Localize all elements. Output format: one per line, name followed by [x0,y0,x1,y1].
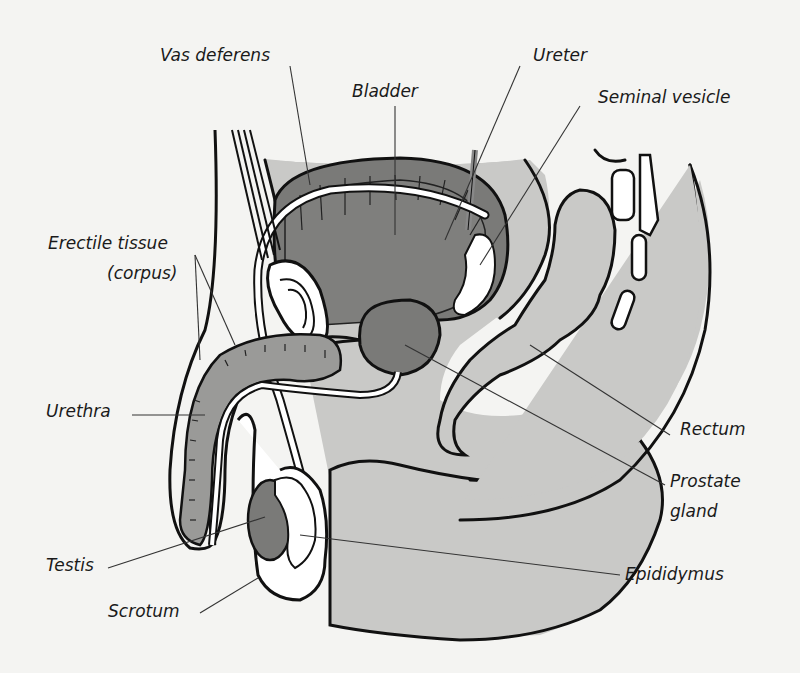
label-bladder: Bladder [352,80,418,102]
label-scrotum: Scrotum [108,600,180,622]
prostate-shape [360,300,440,375]
label-erectile-tissue-line1: Erectile tissue [48,232,168,254]
label-epididymus: Epididymus [625,563,724,585]
label-rectum: Rectum [680,418,746,440]
label-erectile-tissue-line2: (corpus) [107,262,177,284]
label-seminal-vesicle: Seminal vesicle [598,86,730,108]
label-prostate-line1: Prostate [670,470,741,492]
label-prostate-line2: gland [670,500,718,522]
label-testis: Testis [46,554,94,576]
label-vas-deferens: Vas deferens [160,44,270,66]
label-ureter: Ureter [533,44,587,66]
label-urethra: Urethra [46,400,111,422]
